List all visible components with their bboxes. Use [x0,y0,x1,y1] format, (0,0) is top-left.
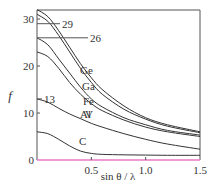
curve-label-ga: Ga [82,80,95,92]
y-tick-label: 10 [23,107,35,119]
curve-label-al: Al [80,108,91,120]
y-tick-label: 20 [23,60,35,72]
curves: GeGaFeVAlC [37,10,200,156]
x-tick-label: 1.0 [139,164,153,176]
ref-label-29: 29 [62,18,74,30]
ref-label-26: 26 [90,32,102,44]
curve-v [37,52,200,137]
curve-c [37,132,200,156]
frame-border [37,10,200,160]
y-axis-label: f [8,88,14,103]
y-tick-label: 30 [23,13,35,25]
curve-label-c: C [79,135,86,147]
x-tick-label: 1.5 [193,164,207,176]
curve-fe [37,38,200,135]
ref-label-13: 13 [44,93,56,105]
x-axis-label: sin θ / λ [101,170,136,182]
plot-frame [37,10,200,160]
x-tick-label: 0.5 [84,164,98,176]
y-tick-label: 0 [29,154,35,166]
chart: GeGaFeVAlC 292613 01020300.51.01.5 sin θ… [0,0,216,189]
